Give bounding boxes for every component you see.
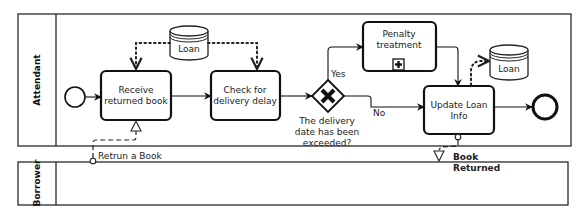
- gateway-label-line2: date has been: [295, 127, 359, 137]
- flow-label-yes: Yes: [330, 69, 346, 79]
- data-store-label: Loan: [498, 64, 520, 74]
- task-update-loan-info[interactable]: Update Loan Info: [424, 86, 494, 134]
- flow-label-no: No: [373, 108, 386, 118]
- end-event[interactable]: [533, 95, 557, 119]
- data-store-loan-2[interactable]: Loan: [490, 45, 528, 80]
- task-label-line1: Check for: [224, 85, 267, 95]
- start-event[interactable]: [65, 87, 85, 107]
- task-label-line2: returned book: [104, 96, 168, 106]
- data-store-label: Loan: [178, 44, 200, 54]
- task-label-line2: treatment: [376, 40, 422, 50]
- task-label-line2: Info: [450, 111, 468, 121]
- message-flow-label: Retrun a Book: [98, 151, 162, 161]
- gateway-label-line3: exceeded?: [303, 138, 352, 148]
- task-check-delivery-delay[interactable]: Check for delivery delay: [211, 71, 280, 120]
- subprocess-plus-icon[interactable]: [393, 59, 404, 70]
- pool-label-borrower: Borrower: [32, 159, 42, 207]
- subprocess-penalty-treatment[interactable]: Penalty treatment: [363, 22, 436, 71]
- message-flow-label-line1: Book: [453, 152, 479, 162]
- data-store-loan-1[interactable]: Loan: [170, 26, 208, 60]
- message-flow-label-line2: Returned: [453, 163, 500, 173]
- task-label-line1: Receive: [118, 85, 154, 95]
- task-label-line2: delivery delay: [213, 96, 277, 106]
- bpmn-diagram: Attendant Borrower Receive returned book…: [0, 0, 587, 219]
- task-receive-returned-book[interactable]: Receive returned book: [101, 71, 171, 120]
- gateway-label-line1: The delivery: [298, 116, 355, 126]
- pool-label-attendant: Attendant: [32, 54, 42, 106]
- task-label-line1: Update Loan: [430, 100, 487, 110]
- task-label-line1: Penalty: [382, 29, 416, 39]
